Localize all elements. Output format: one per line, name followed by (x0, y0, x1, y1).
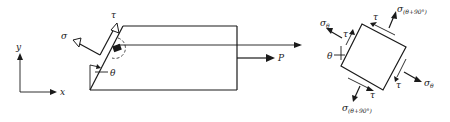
rotated-stress-element: θ σ θ τ τ σ (θ+90°) τ σ θ τ (320, 4, 434, 114)
stress-transformation-figure: y x P τ σ θ (0, 0, 450, 122)
y-axis-label: y (15, 42, 22, 52)
element-angle-label: θ (327, 51, 333, 61)
sigma-perp-top-subscript: (θ+90°) (403, 8, 428, 15)
load-p-label: P (277, 53, 285, 63)
x-axis-label: x (60, 87, 65, 97)
normal-stress-label: σ (61, 31, 68, 41)
sigma-perp-bottom-subscript: (θ+90°) (348, 107, 373, 114)
shear-stress-label: τ (111, 10, 117, 20)
sigma-theta-left-subscript: θ (326, 22, 330, 29)
tau-bottom-label: τ (370, 90, 376, 100)
bar-with-inclined-section: P τ σ θ (61, 10, 302, 90)
tau-right-label: τ (396, 80, 402, 90)
sigma-theta-right-subscript: θ (430, 82, 434, 89)
tau-top-label: τ (373, 12, 379, 22)
coordinate-axes: y x (15, 42, 65, 97)
tau-left-label: τ (343, 29, 349, 39)
angle-theta-label: θ (110, 68, 116, 78)
